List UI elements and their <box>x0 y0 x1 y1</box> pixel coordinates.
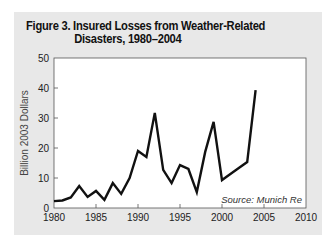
x-tick-label: 1980 <box>43 212 66 223</box>
plot-area <box>54 58 306 208</box>
x-tick-label: 2000 <box>211 212 234 223</box>
x-tick-label: 2005 <box>253 212 276 223</box>
y-tick-label: 10 <box>38 173 50 184</box>
y-tick-label: 40 <box>38 83 50 94</box>
y-tick-label: 20 <box>38 143 50 154</box>
x-tick-label: 1990 <box>127 212 150 223</box>
line-chart: 01020304050 1980198519901995200020052010… <box>0 0 336 243</box>
y-axis-label: Billion 2003 Dollars <box>19 90 30 176</box>
x-tick-label: 1985 <box>85 212 108 223</box>
x-tick-label: 1995 <box>169 212 192 223</box>
x-tick-label: 2010 <box>295 212 318 223</box>
source-note: Source: Munich Re <box>221 194 302 205</box>
y-tick-label: 30 <box>38 113 50 124</box>
y-tick-label: 50 <box>38 53 50 64</box>
